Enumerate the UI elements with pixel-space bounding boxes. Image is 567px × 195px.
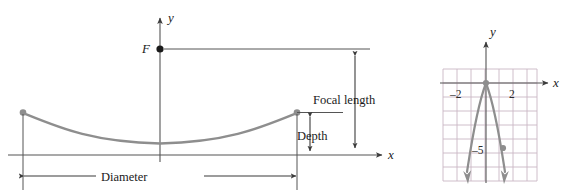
vertex-point	[483, 80, 489, 86]
focal-length-label: Focal length	[313, 93, 376, 107]
focus-point	[156, 45, 163, 52]
figure-canvas: y x F Focal length	[0, 0, 567, 195]
y-axis-label-left: y	[166, 10, 174, 25]
figure-svg: y x F Focal length	[0, 0, 567, 195]
x-tick-label-positive-2: 2	[509, 88, 515, 100]
x-axis-label-left: x	[387, 147, 394, 162]
graph-grid	[443, 69, 537, 181]
satellite-dish-diagram: y x F Focal length	[8, 10, 394, 190]
x-tick-label-negative-2: –2	[449, 88, 462, 100]
x-axis-label-right: x	[552, 75, 559, 90]
right-branch-point	[500, 145, 506, 151]
y-tick-label-negative-5: –5	[471, 144, 484, 156]
depth-label: Depth	[297, 129, 328, 143]
diameter-label: Diameter	[101, 170, 148, 184]
y-axis-label-right: y	[488, 24, 496, 39]
parabola-grid-graph: y x –2 2 –5	[440, 24, 559, 184]
focus-label: F	[141, 41, 151, 56]
